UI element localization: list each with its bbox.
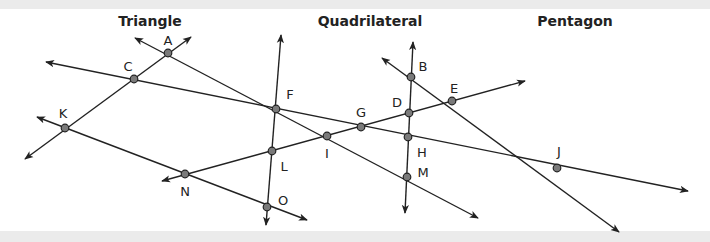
point-c <box>130 75 138 83</box>
point-label-h: H <box>417 145 427 160</box>
point-k <box>61 124 69 132</box>
point-label-k: K <box>59 106 68 121</box>
point-j <box>553 164 561 172</box>
point-label-b: B <box>419 59 428 74</box>
point-e <box>448 97 456 105</box>
point-label-g: G <box>356 105 366 120</box>
point-f <box>272 105 280 113</box>
heading-triangle: Triangle <box>118 13 181 29</box>
point-g <box>357 123 365 131</box>
point-n <box>181 170 189 178</box>
point-b <box>407 73 415 81</box>
point-label-n: N <box>180 184 190 199</box>
point-label-c: C <box>123 59 132 74</box>
heading-quadrilateral: Quadrilateral <box>318 13 423 29</box>
line-bdhm <box>405 42 413 213</box>
point-label-f: F <box>286 87 293 102</box>
point-label-j: J <box>556 144 561 159</box>
point-label-l: L <box>280 159 288 174</box>
heading-pentagon: Pentagon <box>537 13 612 29</box>
point-label-o: O <box>278 193 288 208</box>
point-label-i: I <box>325 146 329 161</box>
point-label-m: M <box>417 165 428 180</box>
line-cfghj <box>46 62 688 191</box>
point-a <box>164 49 172 57</box>
point-o <box>263 203 271 211</box>
point-label-e: E <box>450 81 458 96</box>
point-h <box>404 133 412 141</box>
point-m <box>403 173 411 181</box>
point-i <box>323 132 331 140</box>
point-d <box>405 109 413 117</box>
line-intersection-diagram: Triangle Quadrilateral Pentagon ABCDEFGH… <box>0 0 710 242</box>
point-label-d: D <box>392 95 402 110</box>
point-l <box>268 147 276 155</box>
point-label-a: A <box>164 33 173 48</box>
